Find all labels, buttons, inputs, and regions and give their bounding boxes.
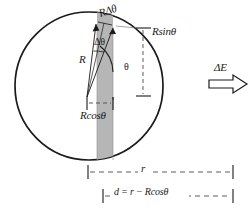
delta-e-arrow-icon [209, 75, 247, 93]
label-radius: R [79, 54, 86, 65]
label-r: r [141, 163, 145, 174]
sphere-circle [15, 12, 163, 160]
geometry-diagram-svg [0, 0, 251, 217]
label-rcos-theta: Rcosθ [80, 110, 106, 121]
label-rsin-theta: Rsinθ [152, 26, 176, 37]
label-delta-theta: Δθ [94, 37, 105, 47]
label-theta: θ [124, 62, 129, 72]
label-delta-e: ΔE [214, 62, 227, 73]
figure-root: RΔθ Rsinθ Δθ R θ Rcosθ r d = r − Rcosθ Δ… [0, 0, 251, 217]
label-distance-relation: d = r − Rcosθ [114, 187, 168, 197]
